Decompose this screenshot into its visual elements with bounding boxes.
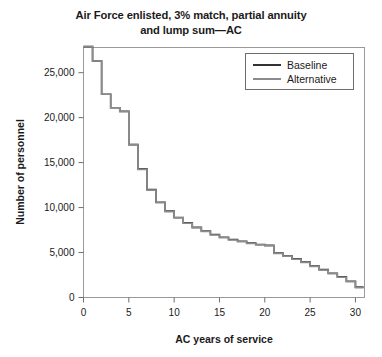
x-tick-label: 30 bbox=[350, 307, 362, 318]
chart-legend: Baseline Alternative bbox=[246, 54, 354, 90]
y-tick-label: 20,000 bbox=[44, 112, 75, 123]
x-tick-label: 15 bbox=[214, 307, 226, 318]
x-axis-label: AC years of service bbox=[175, 333, 273, 345]
y-axis-label: Number of personnel bbox=[14, 119, 26, 225]
x-tick-label: 25 bbox=[305, 307, 317, 318]
y-tick-label: 25,000 bbox=[44, 67, 75, 78]
x-tick-label: 10 bbox=[169, 307, 181, 318]
y-axis-ticks: 05,00010,00015,00020,00025,000 bbox=[44, 67, 84, 303]
legend-label-baseline: Baseline bbox=[287, 59, 327, 71]
legend-label-alternative: Alternative bbox=[287, 73, 337, 85]
x-tick-label: 0 bbox=[81, 307, 87, 318]
x-tick-label: 20 bbox=[259, 307, 271, 318]
plot-area: 05,00010,00015,00020,00025,000 051015202… bbox=[0, 0, 382, 357]
chart-figure: Air Force enlisted, 3% match, partial an… bbox=[0, 0, 382, 357]
y-tick-label: 15,000 bbox=[44, 157, 75, 168]
y-tick-label: 0 bbox=[69, 292, 75, 303]
x-axis-ticks: 051015202530 bbox=[81, 298, 362, 318]
y-tick-label: 5,000 bbox=[49, 247, 74, 258]
x-tick-label: 5 bbox=[126, 307, 132, 318]
y-tick-label: 10,000 bbox=[44, 202, 75, 213]
